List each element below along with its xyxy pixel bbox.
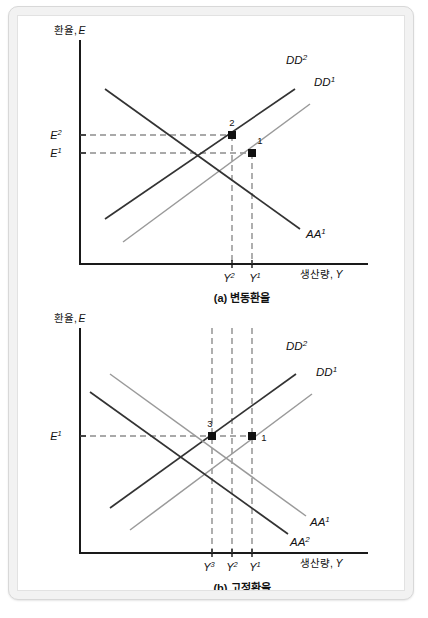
panel-b-y-axis-label: 환율,E bbox=[54, 312, 86, 324]
panel-a-curve-dd1 bbox=[123, 104, 310, 242]
panel-b-curve-label-aa2: AA2 bbox=[289, 535, 310, 549]
panel-b-curve-label-dd1: DD1 bbox=[316, 365, 337, 379]
panel-b-xtick-label-y3: Y3 bbox=[203, 560, 215, 573]
panel-b-fixed-exchange-rate: 환율,E 생산량,Y bbox=[18, 298, 404, 591]
figure-content-area: 환율,E 생산량,Y bbox=[17, 15, 405, 591]
panel-a-xtick-label-y1: Y1 bbox=[249, 271, 261, 284]
panel-b-caption: (b) 고정환율 bbox=[213, 581, 270, 591]
panel-b-point-label-1: 1 bbox=[261, 432, 266, 443]
panel-b-xtick-label-y2: Y2 bbox=[226, 560, 238, 573]
panel-a-ytick-label-e2: E2 bbox=[50, 128, 62, 141]
panel-a-y-axis-label: 환율,E bbox=[54, 24, 86, 36]
panel-a-x-axis-label: 생산량,Y bbox=[300, 268, 343, 280]
panel-b-x-axis-label: 생산량,Y bbox=[300, 557, 343, 569]
figure-frame: 환율,E 생산량,Y bbox=[8, 6, 414, 600]
panel-a-point-label-2: 2 bbox=[229, 117, 234, 128]
panel-a-curve-label-dd2: DD2 bbox=[286, 53, 308, 67]
panel-b-curve-label-dd2: DD2 bbox=[286, 339, 308, 353]
panel-b-curve-aa2 bbox=[90, 392, 288, 534]
panel-a-xtick-label-y2: Y2 bbox=[223, 271, 235, 284]
panel-b-equilibrium-point-3 bbox=[208, 432, 216, 440]
panel-b-curve-label-aa1: AA1 bbox=[309, 515, 330, 529]
panel-b-ytick-label-e1: E1 bbox=[50, 429, 62, 442]
panel-a-equilibrium-point-1 bbox=[248, 149, 256, 157]
panel-a-floating-exchange-rate: 환율,E 생산량,Y bbox=[18, 16, 404, 306]
panel-a-equilibrium-point-2 bbox=[228, 131, 236, 139]
panel-b-point-label-3: 3 bbox=[207, 418, 212, 429]
panel-b-equilibrium-point-1 bbox=[248, 432, 256, 440]
panel-a-curve-label-aa1: AA1 bbox=[305, 227, 326, 241]
panel-a-point-label-1: 1 bbox=[257, 135, 262, 146]
panel-a-curve-label-dd1: DD1 bbox=[314, 75, 335, 89]
panel-b-xtick-label-y1: Y1 bbox=[249, 560, 261, 573]
panel-b-curve-aa1 bbox=[110, 374, 306, 516]
panel-b-curve-dd1 bbox=[130, 394, 312, 530]
panel-a-ytick-label-e1: E1 bbox=[50, 146, 62, 159]
panel-a-chart: 환율,E 생산량,Y bbox=[18, 16, 405, 306]
panel-a-curve-aa1 bbox=[105, 89, 300, 229]
panel-b-chart: 환율,E 생산량,Y bbox=[18, 298, 405, 591]
